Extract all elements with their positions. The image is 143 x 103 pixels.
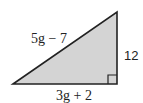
vertical-leg-label: 12 [124,48,138,63]
horizontal-leg-label: 3g + 2 [56,88,92,103]
triangle-shape [13,12,117,84]
triangle-diagram: 5g − 7 12 3g + 2 [0,0,143,103]
hypotenuse-label: 5g − 7 [31,31,67,46]
